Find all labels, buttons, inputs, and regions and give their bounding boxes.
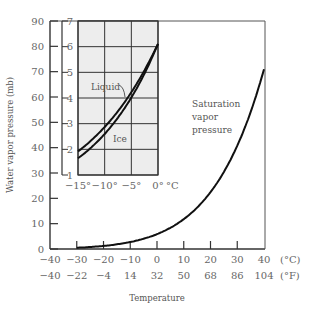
x-tick-label-c: 30 — [231, 254, 244, 265]
inset-x-tick-label: −15° — [65, 180, 91, 191]
ice-label: Ice — [113, 134, 127, 144]
inset-y-tick-label: 5 — [67, 67, 73, 78]
x-tick-label-f: −4 — [96, 270, 111, 281]
x-tick-label-c: −30 — [66, 254, 87, 265]
inset-y-tick-label: 7 — [67, 16, 73, 27]
inset-y-tick-label: 3 — [67, 118, 73, 129]
x-tick-label-c: 0 — [154, 254, 160, 265]
inset-y-tick-label: 2 — [67, 144, 73, 155]
y-tick-label: 50 — [31, 117, 44, 128]
x-tick-label-c: 20 — [204, 254, 217, 265]
x-tick-label-f: 68 — [204, 270, 217, 281]
y-tick-label: 80 — [31, 41, 44, 52]
inset-y-tick-label: 6 — [67, 41, 73, 52]
liquid-label: Liquid — [91, 82, 120, 92]
inset-x-tick-label: −10° — [92, 180, 118, 191]
vapor-pressure-chart: 0102030405060708090−40−40−30−22−20−4−101… — [0, 0, 315, 314]
x-tick-label-f: 86 — [231, 270, 244, 281]
x-tick-label-f: 14 — [124, 270, 137, 281]
inset-chart: 1234567−15°−10°−5°0°°C — [62, 16, 179, 192]
x-tick-label-f: −22 — [66, 270, 87, 281]
x-tick-label-c: −20 — [93, 254, 114, 265]
saturation-annotation: Saturation — [192, 99, 241, 109]
y-axis-title: Water vapor pressure (mb) — [5, 77, 15, 193]
inset-y-tick-label: 1 — [67, 170, 73, 181]
x-tick-label-f: 50 — [177, 270, 190, 281]
y-tick-label: 70 — [31, 66, 44, 77]
inset-y-tick-label: 4 — [67, 93, 73, 104]
x-tick-label-f: 32 — [151, 270, 164, 281]
x-unit-fahrenheit: (°F) — [280, 270, 300, 281]
x-tick-label-c: −40 — [39, 254, 60, 265]
y-tick-label: 90 — [31, 16, 44, 27]
y-tick-label: 30 — [31, 168, 44, 179]
y-tick-label: 0 — [38, 244, 44, 255]
x-tick-label-f: −40 — [39, 270, 60, 281]
saturation-annotation: pressure — [192, 125, 232, 135]
y-tick-label: 60 — [31, 92, 44, 103]
inset-x-tick-label: −5° — [121, 180, 141, 191]
x-tick-label-c: −10 — [120, 254, 141, 265]
inset-x-tick-label: 0° — [152, 180, 163, 191]
y-tick-label: 20 — [31, 193, 44, 204]
saturation-annotation: vapor — [191, 112, 219, 122]
inset-x-unit: °C — [166, 180, 179, 191]
x-tick-label-c: 10 — [177, 254, 190, 265]
x-tick-label-c: 40 — [258, 254, 271, 265]
y-tick-label: 40 — [31, 142, 44, 153]
x-tick-label-f: 104 — [254, 270, 273, 281]
x-unit-celsius: (°C) — [280, 254, 301, 265]
x-axis-title: Temperature — [129, 293, 185, 303]
y-tick-label: 10 — [31, 218, 44, 229]
